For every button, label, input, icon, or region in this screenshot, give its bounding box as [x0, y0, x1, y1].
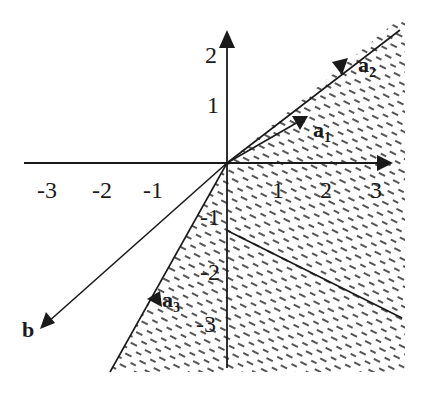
x-tick-3: 3	[370, 177, 382, 203]
x-tick-1: 1	[272, 177, 284, 203]
b-arrow-icon	[40, 312, 55, 329]
y-tick-neg2: -2	[200, 259, 220, 285]
x-tick-2: 2	[320, 177, 332, 203]
x-tick-neg2: -2	[92, 177, 112, 203]
y-tick-1: 1	[207, 92, 219, 118]
y-tick-neg1: -1	[200, 204, 220, 230]
y-tick-2: 2	[205, 42, 217, 68]
y-tick-neg3: -3	[196, 311, 216, 337]
y-axis-arrow-icon	[219, 30, 235, 48]
x-tick-neg3: -3	[37, 177, 57, 203]
x-tick-neg1: -1	[143, 177, 163, 203]
cone-diagram: -3 -2 -1 1 2 3 2 1 -1 -2 -3 a2 a1 a3 b	[0, 0, 425, 396]
label-b: b	[22, 317, 34, 342]
